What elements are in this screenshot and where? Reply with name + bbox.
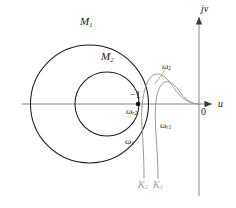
axes-group (22, 17, 212, 196)
figure-canvas (0, 0, 236, 208)
critical-point-marker (136, 102, 140, 106)
omega2-leader-line (155, 70, 165, 84)
nyquist-m-circle-figure: M1 M2 jv u 0 −1 ω2 ωr2 ωr1 ω1 K2 K1 (0, 0, 236, 208)
imaginary-axis-arrow (196, 17, 202, 25)
nyquist-curve-k2 (142, 74, 199, 178)
nyquist-curve-k1 (155, 82, 199, 178)
real-axis-arrow (205, 101, 213, 107)
